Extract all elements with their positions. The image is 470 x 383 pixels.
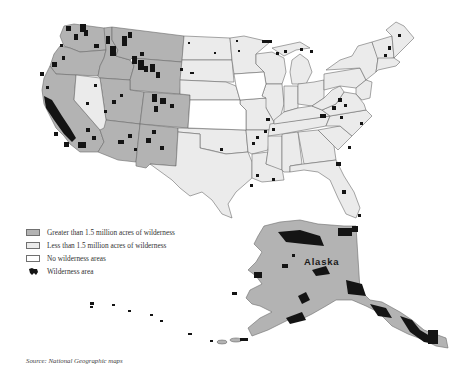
legend-item-wilderness: Wilderness area xyxy=(26,265,175,277)
state-colorado xyxy=(140,92,190,128)
state-southern-new-england xyxy=(376,58,400,72)
legend-swatch-greater xyxy=(26,229,40,236)
legend-label-wilderness: Wilderness area xyxy=(47,267,94,276)
state-new-mexico xyxy=(136,124,178,168)
state-arkansas xyxy=(246,130,270,154)
alaska-label: Alaska xyxy=(304,256,339,267)
state-florida xyxy=(290,160,360,218)
legend-label-greater: Greater than 1.5 million acres of wilder… xyxy=(47,228,175,237)
legend-label-less: Less than 1.5 million acres of wildernes… xyxy=(47,241,166,250)
legend-swatch-none xyxy=(26,255,40,262)
wilderness-map: Alaska xyxy=(0,0,470,383)
state-south-dakota xyxy=(180,60,234,82)
legend-item-greater: Greater than 1.5 million acres of wilder… xyxy=(26,226,175,238)
state-kansas xyxy=(188,100,246,130)
state-iowa xyxy=(234,72,266,100)
state-mississippi xyxy=(266,136,282,170)
source-caption: Source: National Geographic maps xyxy=(26,357,123,364)
state-indiana xyxy=(284,86,298,112)
legend-item-none: No wilderness areas xyxy=(26,252,175,264)
legend-item-less: Less than 1.5 million acres of wildernes… xyxy=(26,239,175,251)
legend: Greater than 1.5 million acres of wilder… xyxy=(26,226,175,278)
legend-label-none: No wilderness areas xyxy=(47,254,106,263)
legend-swatch-less xyxy=(26,242,40,249)
wilderness-blob-icon xyxy=(26,267,40,275)
state-north-dakota xyxy=(182,36,232,60)
aleutian-islands xyxy=(217,338,242,344)
